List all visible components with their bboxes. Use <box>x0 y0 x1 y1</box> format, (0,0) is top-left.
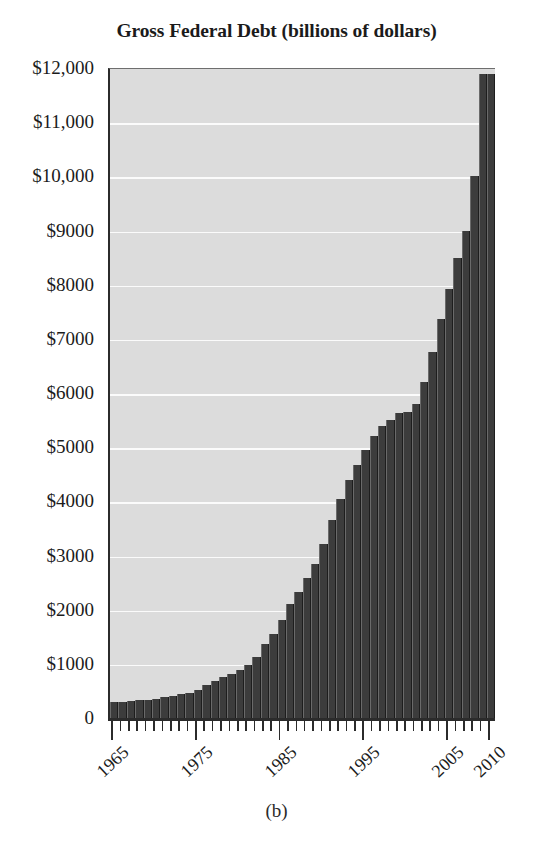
bar <box>118 702 126 719</box>
bar-series <box>110 69 495 719</box>
x-tick-minor <box>178 720 180 731</box>
bar <box>345 480 353 719</box>
bar <box>185 693 193 719</box>
y-tick-label: $11,000 <box>33 111 94 133</box>
bar <box>370 436 378 719</box>
y-tick-label: $5000 <box>47 436 95 458</box>
bar <box>361 450 369 719</box>
bar <box>135 700 143 719</box>
x-tick-minor <box>229 720 231 731</box>
bar <box>144 700 152 719</box>
x-tick-minor <box>455 720 457 731</box>
x-axis-ticks <box>108 720 493 742</box>
x-tick-label: 1965 <box>93 742 134 782</box>
x-tick-minor <box>396 720 398 731</box>
bar <box>420 382 428 719</box>
x-tick-minor <box>162 720 164 731</box>
bar <box>428 352 436 719</box>
y-tick-label: $6000 <box>47 382 95 404</box>
x-tick-major <box>195 720 197 740</box>
bar <box>169 696 177 719</box>
bar <box>160 697 168 719</box>
x-tick-minor <box>187 720 189 731</box>
x-tick-minor <box>329 720 331 731</box>
x-tick-minor <box>153 720 155 731</box>
bar <box>211 681 219 719</box>
x-tick-minor <box>136 720 138 731</box>
x-tick-minor <box>254 720 256 731</box>
x-tick-minor <box>438 720 440 731</box>
bar <box>319 544 327 719</box>
x-tick-minor <box>287 720 289 731</box>
bar <box>110 702 118 719</box>
y-tick-label: $9000 <box>47 220 95 242</box>
x-tick-minor <box>312 720 314 731</box>
x-tick-minor <box>220 720 222 731</box>
x-tick-major <box>279 720 281 740</box>
bar <box>194 690 202 719</box>
y-tick-label: $2000 <box>47 599 95 621</box>
bar <box>437 319 445 719</box>
bar <box>261 644 269 719</box>
y-tick-label: $1000 <box>47 653 95 675</box>
x-tick-minor <box>346 720 348 731</box>
x-tick-minor <box>170 720 172 731</box>
x-tick-minor <box>337 720 339 731</box>
y-tick-label: $8000 <box>47 274 95 296</box>
x-tick-minor <box>120 720 122 731</box>
bar <box>445 289 453 719</box>
y-axis: $12,000$11,000$10,000$9000$8000$7000$600… <box>0 68 100 718</box>
x-tick-minor <box>388 720 390 731</box>
bar <box>152 699 160 719</box>
x-tick-minor <box>421 720 423 731</box>
bar <box>453 258 461 719</box>
x-tick-major <box>111 720 113 740</box>
x-tick-minor <box>471 720 473 731</box>
bar <box>412 404 420 719</box>
bar <box>294 592 302 719</box>
bar <box>479 74 487 719</box>
chart-title: Gross Federal Debt (billions of dollars) <box>0 20 553 42</box>
figure-caption: (b) <box>0 800 553 822</box>
bar <box>311 564 319 719</box>
bar <box>219 677 227 719</box>
bar <box>286 604 294 719</box>
y-tick-label: $3000 <box>47 545 95 567</box>
y-tick-label: $12,000 <box>32 57 94 79</box>
x-tick-minor <box>404 720 406 731</box>
bar <box>127 701 135 719</box>
y-tick-label: $7000 <box>47 328 95 350</box>
x-tick-minor <box>245 720 247 731</box>
bar <box>336 499 344 719</box>
x-tick-label: 2010 <box>469 742 510 782</box>
y-tick-label: 0 <box>85 707 95 729</box>
x-tick-label: 1985 <box>260 742 301 782</box>
bar <box>227 674 235 719</box>
x-tick-minor <box>463 720 465 731</box>
x-tick-minor <box>212 720 214 731</box>
bar <box>244 665 252 719</box>
bar <box>395 413 403 719</box>
x-tick-minor <box>270 720 272 731</box>
bar <box>378 426 386 719</box>
y-tick-label: $10,000 <box>32 165 94 187</box>
x-tick-minor <box>371 720 373 731</box>
bar <box>252 657 260 719</box>
x-tick-minor <box>354 720 356 731</box>
bar <box>386 420 394 719</box>
bar <box>236 670 244 719</box>
x-tick-major <box>488 720 490 740</box>
figure-container: Gross Federal Debt (billions of dollars)… <box>0 0 553 847</box>
bar <box>328 520 336 719</box>
x-tick-major <box>362 720 364 740</box>
bar <box>403 412 411 719</box>
x-tick-minor <box>203 720 205 731</box>
x-tick-minor <box>321 720 323 731</box>
x-tick-minor <box>304 720 306 731</box>
x-tick-label: 1975 <box>177 742 218 782</box>
bar <box>470 176 478 719</box>
x-tick-label: 1995 <box>344 742 385 782</box>
x-tick-minor <box>262 720 264 731</box>
x-tick-minor <box>413 720 415 731</box>
bar <box>353 465 361 719</box>
